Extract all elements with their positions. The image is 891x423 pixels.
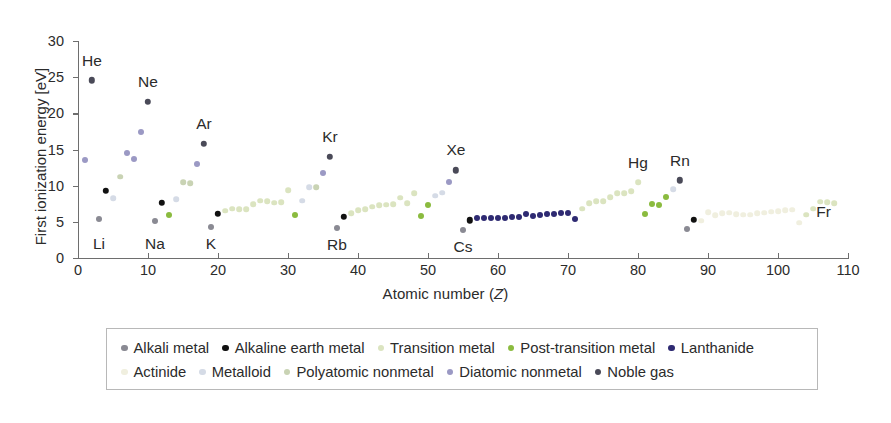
data-point-polyatomic-nonmetal: [117, 174, 123, 180]
annotation-hg: Hg: [628, 154, 648, 172]
annotation-rn: Rn: [670, 152, 690, 170]
data-point-transition-metal: [607, 194, 613, 200]
legend-swatch-polyatomic-nonmetal-icon: [284, 369, 291, 376]
data-point-post-transition-metal: [166, 212, 172, 218]
data-point-lanthanide: [516, 214, 522, 220]
data-point-lanthanide: [502, 215, 508, 221]
legend-label: Alkali metal: [134, 341, 210, 356]
x-tick-label: 100: [766, 262, 790, 278]
legend-item-polyatomic-nonmetal[interactable]: Polyatomic nonmetal: [284, 365, 434, 380]
legend-item-transition-metal[interactable]: Transition metal: [378, 341, 495, 356]
data-point-polyatomic-nonmetal: [187, 180, 193, 186]
data-point-actinide: [733, 212, 739, 218]
legend-label: Transition metal: [390, 341, 495, 356]
annotation-rb: Rb: [327, 236, 347, 254]
data-point-lanthanide: [565, 210, 571, 216]
x-tick-label: 0: [74, 262, 82, 278]
data-point-metalloid: [432, 193, 438, 199]
data-point-polyatomic-nonmetal: [180, 179, 186, 185]
y-tick: [73, 186, 78, 187]
data-point-alkali-metal: [96, 216, 102, 222]
data-point-transition-metal: [355, 207, 361, 213]
data-point-transition-metal: [243, 206, 249, 212]
x-tick-label: 20: [210, 262, 226, 278]
data-point-transition-metal: [621, 190, 627, 196]
y-tick-label: 0: [56, 250, 64, 266]
data-point-transition-metal: [285, 187, 291, 193]
data-point-transition-metal: [257, 198, 263, 204]
data-point-transition-metal: [383, 202, 389, 208]
y-tick-label: 5: [56, 214, 64, 230]
data-point-actinide: [712, 213, 718, 219]
x-tick-label: 30: [280, 262, 296, 278]
data-point-transition-metal: [278, 199, 284, 205]
data-point-alkaline-earth-metal: [467, 217, 473, 223]
data-point-diatomic-nonmetal: [82, 157, 88, 163]
legend-label: Noble gas: [607, 365, 674, 380]
x-tick-label: 80: [630, 262, 646, 278]
data-point-metalloid: [173, 196, 179, 202]
annotation-cs: Cs: [454, 238, 473, 256]
y-tick: [73, 77, 78, 78]
data-point-alkaline-earth-metal: [691, 217, 697, 223]
data-point-transition-metal: [271, 200, 277, 206]
y-tick-label: 20: [48, 105, 64, 121]
y-tick: [73, 41, 78, 42]
data-point-diatomic-nonmetal: [320, 170, 326, 176]
data-point-actinide: [775, 208, 781, 214]
legend-item-lanthanide[interactable]: Lanthanide: [668, 341, 754, 356]
data-point-actinide: [761, 210, 767, 216]
data-point-alkaline-earth-metal: [215, 211, 221, 217]
data-point-transition-metal: [348, 210, 354, 216]
data-point-post-transition-metal: [418, 213, 424, 219]
annotation-k: K: [206, 235, 216, 253]
data-point-transition-metal: [593, 198, 599, 204]
annotation-ar: Ar: [196, 115, 212, 133]
y-tick-label: 25: [48, 69, 64, 85]
data-point-metalloid: [299, 198, 305, 204]
legend-label: Actinide: [134, 365, 187, 380]
y-tick-label: 30: [48, 33, 64, 49]
legend-item-actinide[interactable]: Actinide: [121, 365, 186, 380]
data-point-transition-metal: [579, 206, 585, 212]
data-point-noble-gas: [677, 177, 683, 183]
x-tick: [848, 253, 849, 258]
data-point-noble-gas: [327, 154, 333, 160]
legend: Alkali metalAlkaline earth metalTransiti…: [106, 328, 818, 390]
data-point-noble-gas: [89, 77, 95, 83]
legend-swatch-actinide-icon: [121, 369, 128, 376]
data-point-transition-metal: [264, 198, 270, 204]
data-point-post-transition-metal: [642, 211, 648, 217]
data-point-lanthanide: [481, 215, 487, 221]
legend-item-alkali-metal[interactable]: Alkali metal: [121, 341, 209, 356]
data-point-lanthanide: [572, 216, 578, 222]
legend-item-post-transition-metal[interactable]: Post-transition metal: [508, 341, 655, 356]
data-point-actinide: [768, 209, 774, 215]
data-point-transition-metal: [628, 188, 634, 194]
y-tick: [73, 258, 78, 259]
data-point-actinide: [719, 210, 725, 216]
legend-item-metalloid[interactable]: Metalloid: [199, 365, 271, 380]
data-point-transition-metal: [376, 203, 382, 209]
annotation-kr: Kr: [322, 128, 338, 146]
x-tick-label: 40: [350, 262, 366, 278]
data-point-transition-metal: [600, 199, 606, 205]
data-point-actinide: [789, 207, 795, 213]
data-point-lanthanide: [474, 215, 480, 221]
data-point-metalloid: [306, 184, 312, 190]
data-point-transition-metal: [362, 206, 368, 212]
x-axis-line: [78, 258, 849, 259]
legend-item-diatomic-nonmetal[interactable]: Diatomic nonmetal: [447, 365, 582, 380]
data-point-transition-metal: [229, 206, 235, 212]
legend-label: Alkaline earth metal: [235, 341, 365, 356]
data-point-diatomic-nonmetal: [446, 179, 452, 185]
legend-item-noble-gas[interactable]: Noble gas: [595, 365, 674, 380]
legend-swatch-noble-gas-icon: [595, 369, 602, 376]
data-point-alkali-metal: [152, 218, 158, 224]
y-tick: [73, 150, 78, 151]
x-tick-label: 60: [490, 262, 506, 278]
x-tick-label: 90: [700, 262, 716, 278]
legend-item-alkaline-earth-metal[interactable]: Alkaline earth metal: [222, 341, 364, 356]
data-point-metalloid: [439, 190, 445, 196]
data-point-metalloid: [670, 186, 676, 192]
